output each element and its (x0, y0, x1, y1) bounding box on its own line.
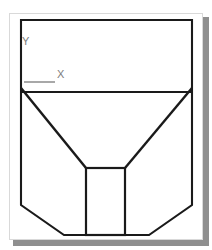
outlet-rectangle[interactable] (86, 168, 125, 235)
ucs-leader-line (24, 81, 55, 83)
axis-label-x: X (57, 69, 64, 80)
drawing-viewport: Y X (0, 0, 212, 250)
axis-label-y: Y (22, 36, 29, 47)
cad-canvas[interactable] (0, 0, 212, 250)
